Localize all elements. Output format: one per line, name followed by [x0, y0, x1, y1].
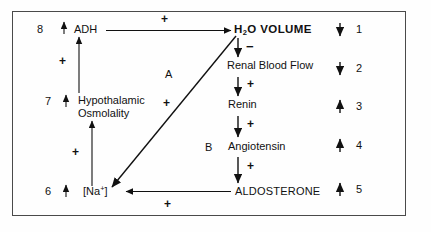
right-number-4: 4 — [356, 140, 362, 151]
node-hypothalamic-osmolality-line2: Osmolality — [78, 108, 129, 119]
node-h2o-rest: O VOLUME — [247, 23, 312, 35]
diagram-canvas: 8 7 6 ADH Hypothalamic Osmolality [Na+] … — [0, 0, 431, 232]
node-renal-blood-flow: Renal Blood Flow — [227, 60, 313, 71]
left-number-8: 8 — [37, 24, 43, 35]
connector-layer — [0, 0, 431, 232]
sign-renin-to-angiotensin: + — [247, 118, 254, 130]
sign-diagonal-pathway-a: + — [163, 97, 170, 109]
node-angiotensin: Angiotensin — [228, 141, 286, 152]
node-h2o-volume: H2O VOLUME — [234, 24, 312, 36]
sign-osmolality-to-adh: + — [59, 55, 66, 67]
node-sodium-superscript: + — [100, 184, 104, 193]
right-number-3: 3 — [356, 101, 362, 112]
node-aldosterone: ALDOSTERONE — [235, 186, 320, 197]
node-h2o-subscript: 2 — [243, 28, 248, 37]
sign-sodium-to-osmolality: + — [72, 146, 79, 158]
sign-h2o-to-renal: − — [246, 40, 254, 53]
sign-adh-to-h2o: + — [161, 13, 168, 25]
node-adh: ADH — [74, 24, 97, 35]
right-number-5: 5 — [356, 184, 362, 195]
sign-aldosterone-to-sodium: + — [164, 198, 171, 210]
right-number-2: 2 — [356, 63, 362, 74]
left-number-6: 6 — [45, 186, 51, 197]
node-hypothalamic-osmolality-line1: Hypothalamic — [78, 95, 145, 106]
pathway-label-a: A — [165, 69, 172, 80]
sign-renal-to-renin: + — [247, 78, 254, 90]
node-renin: Renin — [228, 99, 257, 110]
left-number-7: 7 — [45, 96, 51, 107]
sign-angiotensin-to-aldosterone: + — [247, 160, 254, 172]
node-h2o-h: H — [234, 23, 243, 35]
node-sodium-open: [Na — [83, 185, 100, 197]
node-sodium: [Na+] — [83, 186, 108, 197]
right-number-1: 1 — [356, 24, 362, 35]
arrow-h2o-to-sodium-diagonal — [112, 36, 236, 187]
pathway-label-b: B — [205, 142, 212, 153]
